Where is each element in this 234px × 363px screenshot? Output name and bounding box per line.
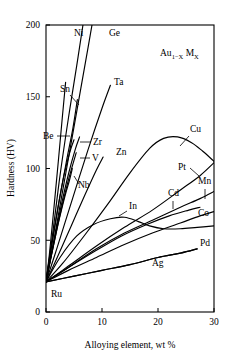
series-label-ag: Ag — [152, 258, 164, 268]
series-label-ta: Ta — [114, 77, 124, 87]
hardness-vs-alloying-chart: 050100150200 0102030 NiGeTaSnBeZrVNbZnCu… — [0, 0, 234, 363]
series-label-ge: Ge — [109, 28, 120, 38]
annot-sub-1x: 1−X — [172, 53, 184, 60]
series-label-pd: Pd — [200, 238, 210, 248]
y-tick-label-150: 150 — [26, 92, 41, 102]
svg-text:Au1−X MX: Au1−X MX — [160, 48, 199, 60]
data-curves — [46, 22, 214, 282]
y-axis-tick-labels: 050100150200 — [26, 20, 41, 317]
series-label-cu: Cu — [190, 124, 201, 134]
x-tick-label-10: 10 — [97, 317, 107, 327]
y-tick-label-50: 50 — [31, 236, 41, 246]
series-label-be: Be — [43, 131, 54, 141]
x-axis-title: Alloying element, wt % — [85, 340, 176, 350]
label-leader-lines — [57, 95, 205, 216]
series-label-in: In — [129, 201, 137, 211]
series-label-v: V — [92, 153, 99, 163]
y-tick-label-100: 100 — [26, 164, 41, 174]
x-tick-label-20: 20 — [153, 317, 163, 327]
annot-sub-x: X — [194, 53, 199, 60]
series-label-zn: Zn — [116, 147, 127, 157]
series-label-mn: Mn — [198, 176, 211, 186]
series-label-nb: Nb — [78, 180, 90, 190]
leader-pt — [190, 168, 199, 176]
series-label-ru: Ru — [51, 289, 62, 299]
chart-svg: 050100150200 0102030 NiGeTaSnBeZrVNbZnCu… — [0, 0, 234, 363]
series-label-co: Co — [198, 208, 209, 218]
series-label-sn: Sn — [60, 84, 70, 94]
x-axis-tick-labels: 0102030 — [44, 317, 219, 327]
series-labels: NiGeTaSnBeZrVNbZnCuPtMnCdInCoPdAgRu — [43, 28, 211, 299]
composition-annotation: Au1−X MX — [160, 48, 199, 60]
y-tick-label-200: 200 — [26, 20, 41, 30]
series-label-zr: Zr — [93, 137, 103, 147]
leader-in — [119, 211, 127, 216]
x-tick-label-30: 30 — [209, 317, 219, 327]
series-label-ni: Ni — [74, 28, 84, 38]
annot-au: Au — [160, 48, 172, 58]
curve-pt — [46, 163, 214, 282]
y-axis-title: Hardness (HV) — [6, 139, 17, 197]
x-tick-label-0: 0 — [44, 317, 49, 327]
x-axis-ticks — [46, 308, 214, 312]
curve-co — [46, 212, 214, 282]
series-label-pt: Pt — [178, 162, 186, 172]
curve-ge — [46, 22, 92, 282]
y-tick-label-0: 0 — [35, 307, 40, 317]
series-label-cd: Cd — [168, 188, 179, 198]
